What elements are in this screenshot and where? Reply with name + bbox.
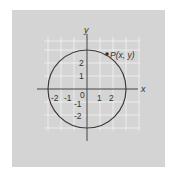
- point-p-marker: [105, 52, 109, 56]
- point-p-label: P(x, y): [110, 50, 135, 60]
- y-axis-label: y: [83, 25, 89, 35]
- x-tick-neg2: -2: [51, 93, 59, 103]
- y-tick-neg2: -2: [74, 111, 82, 121]
- y-tick-1: 1: [79, 71, 84, 81]
- x-tick-2: 2: [109, 93, 114, 103]
- x-tick-neg1: -1: [64, 93, 72, 103]
- x-tick-1: 1: [97, 93, 102, 103]
- y-tick-neg1: -1: [74, 99, 82, 109]
- x-axis-label: x: [140, 84, 146, 94]
- coordinate-plane: x y P(x, y) -2 -1 0 1 2 2 1 -1 -2: [0, 0, 176, 179]
- y-tick-2: 2: [79, 58, 84, 68]
